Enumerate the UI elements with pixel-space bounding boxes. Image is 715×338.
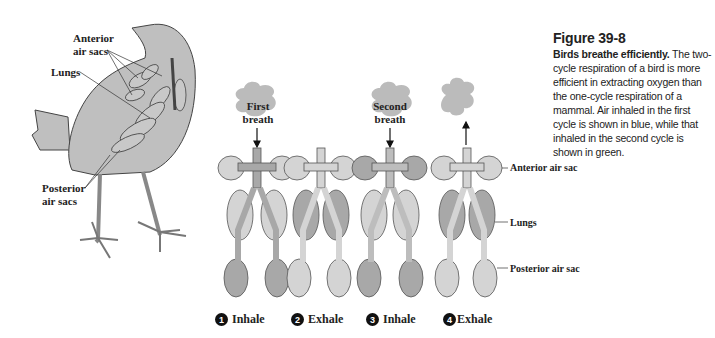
caption-body: The two-cycle respiration of a bird is m… <box>553 48 711 158</box>
label-first-breath: First breath <box>238 100 278 126</box>
step-1-label: 1 Inhale <box>215 312 265 327</box>
step-2-label: 2 Exhale <box>291 312 343 327</box>
step-3-label: 3 Inhale <box>366 312 416 327</box>
step-4-label: 4 Exhale <box>443 312 492 327</box>
step-number-badge: 4 <box>443 313 456 326</box>
label-second-breath: Second breath <box>368 100 412 126</box>
step-number-badge: 3 <box>366 313 379 326</box>
step-number-badge: 1 <box>215 313 228 326</box>
label-line: air sacs <box>73 45 114 58</box>
label-posterior-air-sacs: Posterior air sacs <box>42 182 85 208</box>
step-number-badge: 2 <box>291 313 304 326</box>
step-label-text: Inhale <box>383 312 416 327</box>
label-line: breath <box>368 113 412 126</box>
step-label-text: Exhale <box>457 312 492 327</box>
label-anterior-air-sac: Anterior air sac <box>510 161 577 174</box>
label-line: breath <box>238 113 278 126</box>
figure-caption: Figure 39-8 Birds breathe efficiently. T… <box>553 30 713 159</box>
system-step-2 <box>284 148 356 297</box>
system-step-1 <box>218 148 295 297</box>
system-step-3 <box>352 148 427 297</box>
label-lungs-bird: Lungs <box>51 66 80 79</box>
step-label-text: Exhale <box>308 312 343 327</box>
label-posterior-air-sac: Posterior air sac <box>510 262 580 275</box>
figure-number: Figure 39-8 <box>553 30 713 46</box>
step-label-text: Inhale <box>232 312 265 327</box>
label-line: First <box>238 100 278 113</box>
system-step-4 <box>431 148 502 297</box>
label-line: Second <box>368 100 412 113</box>
label-anterior-air-sacs: Anterior air sacs <box>73 32 114 58</box>
label-lungs: Lungs <box>510 216 537 229</box>
caption-lead: Birds breathe efficiently. <box>553 48 670 60</box>
airflow-arrows <box>254 122 469 147</box>
label-line: Anterior <box>73 32 114 45</box>
label-line: air sacs <box>42 195 85 208</box>
figure-description: Birds breathe efficiently. The two-cycle… <box>553 47 713 159</box>
label-line: Posterior <box>42 182 85 195</box>
side-pointer-lines <box>495 168 508 268</box>
